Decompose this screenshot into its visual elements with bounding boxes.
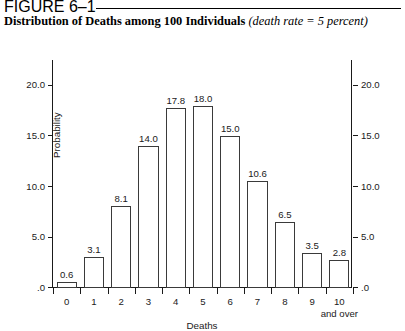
x-axis-tick (108, 288, 109, 294)
x-axis-tick (53, 288, 54, 294)
x-axis-label-text: 7 (255, 296, 260, 307)
y-axis-label-right: 15.0 (361, 131, 401, 141)
bar (138, 146, 158, 288)
x-axis-tick (189, 288, 190, 294)
y-axis-label-left: .0 (5, 283, 45, 293)
y-axis-tick-left (48, 135, 53, 136)
y-axis-label-left: 5.0 (5, 232, 45, 242)
x-axis-tick (326, 288, 327, 294)
figure-header: FIGURE 6–1 (4, 0, 401, 13)
bar-value-label: 14.0 (128, 134, 168, 144)
x-axis-tick (298, 288, 299, 294)
bar (220, 136, 240, 288)
y-axis-label-left: 15.0 (5, 131, 45, 141)
y-axis-tick-right (353, 237, 358, 238)
x-axis-label-text: 3 (146, 296, 151, 307)
x-axis-label-text: 10 (334, 296, 345, 307)
bar (84, 257, 104, 288)
y-axis-tick-right (353, 186, 358, 187)
x-axis-label-subtext: and over (316, 308, 362, 320)
figure-title-subtitle: (death rate = 5 percent) (248, 14, 367, 28)
x-axis-label: 10and over (316, 296, 362, 319)
x-axis-tick (353, 288, 354, 294)
bar (57, 282, 77, 288)
bar (329, 260, 349, 288)
y-axis-tick-left (48, 85, 53, 86)
x-axis-title: Deaths (52, 320, 352, 331)
x-axis-label-text: 8 (282, 296, 287, 307)
y-axis-label-right: 10.0 (361, 182, 401, 192)
bar-value-label: 3.1 (74, 245, 114, 255)
x-axis-label-text: 1 (91, 296, 96, 307)
bar-value-label: 6.5 (265, 210, 305, 220)
y-axis-label-left: 20.0 (5, 80, 45, 90)
bar-value-label: 0.6 (47, 270, 87, 280)
figure-title: Distribution of Deaths among 100 Individ… (4, 13, 404, 30)
y-axis-label-left: 10.0 (5, 182, 45, 192)
chart-area: Probability .05.010.015.020.0 .05.010.01… (0, 30, 405, 322)
x-axis-label-text: 0 (64, 296, 69, 307)
x-axis-tick (162, 288, 163, 294)
plot-frame: Probability .05.010.015.020.0 .05.010.01… (52, 60, 352, 288)
bar (247, 181, 267, 288)
bar-value-label: 10.6 (238, 169, 278, 179)
y-axis-tick-right (353, 85, 358, 86)
y-axis-tick-left (48, 186, 53, 187)
x-axis-label-text: 2 (119, 296, 124, 307)
x-axis-tick (80, 288, 81, 294)
x-axis-label-text: 4 (173, 296, 178, 307)
x-axis-tick (217, 288, 218, 294)
x-axis-tick (271, 288, 272, 294)
x-axis-label-text: 9 (309, 296, 314, 307)
figure-title-main: Distribution of Deaths among 100 Individ… (4, 14, 245, 28)
bar-value-label: 8.1 (101, 194, 141, 204)
bar (302, 253, 322, 288)
y-axis-label-right: .0 (361, 283, 401, 293)
bar (166, 108, 186, 288)
bar (275, 222, 295, 288)
header-rule (96, 8, 401, 9)
bar (111, 206, 131, 288)
x-axis-tick (244, 288, 245, 294)
bar-value-label: 15.0 (210, 124, 250, 134)
y-axis-label-right: 20.0 (361, 80, 401, 90)
bar-value-label: 18.0 (183, 94, 223, 104)
y-axis-tick-left (48, 237, 53, 238)
y-axis-label-right: 5.0 (361, 232, 401, 242)
x-axis-label-text: 5 (200, 296, 205, 307)
x-axis-tick (135, 288, 136, 294)
y-axis-tick-right (353, 135, 358, 136)
bar-value-label: 2.8 (319, 248, 359, 258)
x-axis-label-text: 6 (228, 296, 233, 307)
